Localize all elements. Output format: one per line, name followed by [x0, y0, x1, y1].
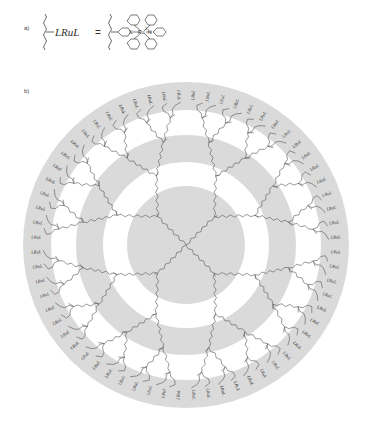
panel-a-scheme: LRuL = N Ru 2+ N [44, 14, 167, 50]
metal-ru: Ru [138, 29, 145, 35]
equals-sign: = [95, 27, 101, 38]
dendrimer-figure: LRuL = N Ru 2+ N LR [0, 0, 369, 428]
terminal-lrul-label: LRuL [175, 389, 181, 401]
terminal-lrul-label: LRuL [30, 249, 42, 255]
atom-n: N [148, 29, 152, 35]
terminal-lrul-label: LRuL [330, 234, 342, 240]
lrul-symbol: LRuL [54, 26, 79, 38]
terminal-lrul-label: LRuL [30, 234, 42, 240]
terminal-lrul-label: LRuL [176, 89, 182, 101]
atom-n: N [129, 29, 133, 35]
terminal-lrul-label: LRuL [191, 389, 197, 401]
terminal-lrul-label: LRuL [190, 90, 196, 102]
terminal-lrul-label: LRuL [330, 249, 342, 255]
